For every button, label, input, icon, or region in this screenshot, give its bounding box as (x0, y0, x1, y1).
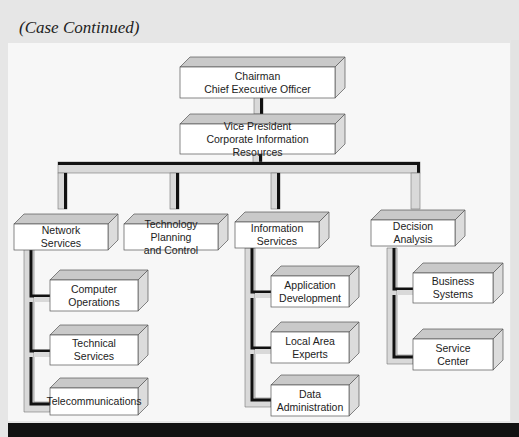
box-label: Administration (277, 401, 344, 414)
box-label: Analysis (393, 233, 433, 246)
vice-president-box: Vice PresidentCorporate Information Reso… (180, 124, 335, 154)
technical-services-box: TechnicalServices (50, 335, 138, 365)
box-label: Decision (393, 220, 433, 233)
box-label: Services (41, 237, 81, 250)
business-systems-box: BusinessSystems (413, 273, 493, 303)
application-development-box: ApplicationDevelopment (271, 276, 349, 307)
local-area-experts-box: Local AreaExperts (271, 332, 349, 363)
data-administration-box: DataAdministration (271, 385, 349, 416)
box-label: Information (251, 222, 304, 235)
box-label: Local Area (285, 335, 335, 348)
box-label: Services (72, 350, 116, 363)
box-label: Corporate Information Resources (180, 133, 335, 159)
org-chart-connectors (0, 0, 519, 437)
computer-operations-box: ComputerOperations (50, 280, 138, 311)
information-services-box: InformationServices (235, 222, 319, 248)
box-label: Chairman (204, 70, 311, 83)
box-label: Services (251, 235, 304, 248)
box-label: Experts (285, 348, 335, 361)
decision-analysis-box: DecisionAnalysis (371, 220, 455, 246)
box-label: Computer (68, 283, 119, 296)
box-label: Telecommunications (46, 395, 141, 408)
box-label: Application (279, 279, 341, 292)
box-label: Network (41, 224, 81, 237)
technology-planning-box: Technology Planningand Control (124, 224, 218, 250)
chairman-ceo-box: ChairmanChief Executive Officer (180, 67, 335, 98)
box-label: Technical (72, 337, 116, 350)
service-center-box: ServiceCenter (413, 339, 493, 370)
box-label: Service (435, 342, 470, 355)
box-label: Systems (432, 288, 475, 301)
box-label: Development (279, 292, 341, 305)
box-label: Center (435, 355, 470, 368)
network-services-box: NetworkServices (14, 224, 108, 250)
box-label: Chief Executive Officer (204, 83, 311, 96)
box-label: Vice President (180, 120, 335, 133)
box-label: Technology Planning (124, 218, 218, 244)
box-label: Operations (68, 296, 119, 309)
telecommunications-box: Telecommunications (50, 388, 138, 415)
box-label: Business (432, 275, 475, 288)
box-label: Data (277, 388, 344, 401)
box-label: and Control (124, 244, 218, 257)
